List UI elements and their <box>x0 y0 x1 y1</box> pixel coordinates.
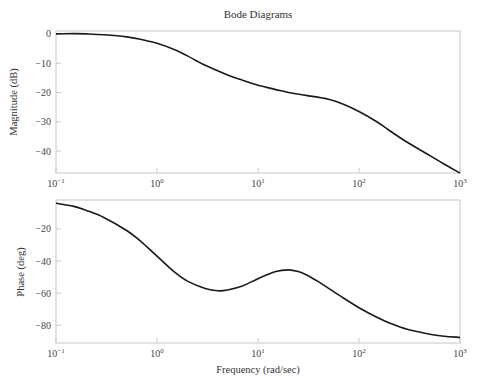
magnitude-y-ticks: 0−10−20−30−40 <box>35 28 61 156</box>
magnitude-x-tick-label: 100 <box>150 177 164 189</box>
magnitude-curve <box>56 34 460 173</box>
magnitude-y-tick-label: −30 <box>35 116 51 127</box>
phase-x-tick-label: 103 <box>453 347 467 359</box>
phase-y-label: Phase (deg) <box>15 247 27 297</box>
phase-y-ticks: −20−40−60−80 <box>35 223 61 330</box>
phase-x-tick-label: 102 <box>352 347 366 359</box>
magnitude-y-tick-label: −10 <box>35 58 51 69</box>
phase-y-tick-label: −60 <box>35 288 51 299</box>
phase-y-tick-label: −40 <box>35 256 51 267</box>
phase-x-tick-label: 10−1 <box>47 347 65 359</box>
magnitude-y-tick-label: 0 <box>46 28 51 39</box>
phase-plot: −20−40−60−80 10−1100101102103 Phase (deg… <box>15 200 467 359</box>
magnitude-x-tick-label: 101 <box>251 177 265 189</box>
bode-chart: Bode Diagrams 0−10−20−30−40 10−110010110… <box>0 0 480 383</box>
phase-axes-frame <box>56 200 460 343</box>
phase-x-ticks: 10−1100101102103 <box>47 338 467 359</box>
magnitude-y-label: Magnitude (dB) <box>8 68 20 136</box>
magnitude-axes-frame <box>56 31 460 173</box>
magnitude-x-ticks: 10−1100101102103 <box>47 168 467 189</box>
magnitude-x-tick-label: 103 <box>453 177 467 189</box>
magnitude-y-tick-label: −40 <box>35 146 51 157</box>
chart-title: Bode Diagrams <box>224 8 293 20</box>
magnitude-y-tick-label: −20 <box>35 87 51 98</box>
magnitude-plot: 0−10−20−30−40 10−1100101102103 Magnitude… <box>8 28 467 189</box>
x-axis-label: Frequency (rad/sec) <box>216 364 300 376</box>
phase-x-tick-label: 101 <box>251 347 265 359</box>
phase-y-tick-label: −80 <box>35 320 51 331</box>
magnitude-x-tick-label: 10−1 <box>47 177 65 189</box>
magnitude-x-tick-label: 102 <box>352 177 366 189</box>
phase-x-tick-label: 100 <box>150 347 164 359</box>
phase-curve <box>56 203 460 337</box>
phase-y-tick-label: −20 <box>35 223 51 234</box>
